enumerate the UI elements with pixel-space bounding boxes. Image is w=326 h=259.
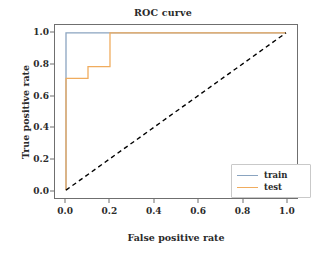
chart-title: ROC curve xyxy=(0,7,326,18)
y-axis-label-holder: True positive rate xyxy=(0,24,20,199)
legend-item-train[interactable]: train xyxy=(237,169,305,181)
x-tick-label: 1.0 xyxy=(267,206,307,216)
x-tick-label: 0.0 xyxy=(45,206,85,216)
legend-swatch-test xyxy=(237,187,258,188)
x-tick-label: 0.8 xyxy=(223,206,263,216)
legend-swatch-train xyxy=(237,175,258,176)
y-axis-label: True positive rate xyxy=(20,42,31,182)
roc-curve-figure: ROC curve True positive rate 0.00.20.40.… xyxy=(0,0,326,259)
x-tick-mark xyxy=(242,199,243,203)
x-tick-label: 0.4 xyxy=(134,206,174,216)
legend-item-test[interactable]: test xyxy=(237,181,305,193)
chart-legend: train test xyxy=(231,164,311,198)
x-tick-label: 0.6 xyxy=(178,206,218,216)
x-tick-mark xyxy=(109,199,110,203)
x-tick-mark xyxy=(153,199,154,203)
x-tick-mark xyxy=(65,199,66,203)
legend-label-test: test xyxy=(264,181,282,193)
x-tick-mark xyxy=(286,199,287,203)
x-tick-label: 0.2 xyxy=(89,206,129,216)
legend-label-train: train xyxy=(264,169,287,181)
x-tick-mark xyxy=(198,199,199,203)
x-axis-label: False positive rate xyxy=(54,232,298,243)
